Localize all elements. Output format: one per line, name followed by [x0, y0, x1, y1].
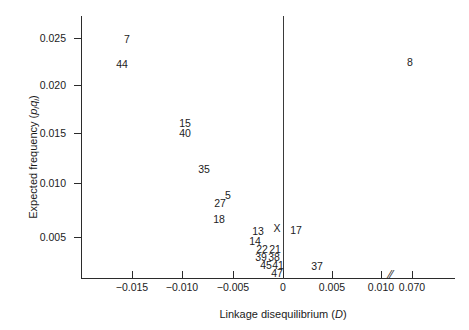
data-point-label: X	[273, 223, 280, 234]
x-tick-mark	[381, 271, 382, 278]
scatter-plot-figure: // 0.0050.0100.0150.0200.025 −0.015−0.01…	[0, 0, 469, 330]
x-tick-label: −0.015	[116, 282, 148, 293]
data-point-label: 44	[116, 59, 128, 70]
y-tick-mark	[74, 237, 81, 238]
x-tick-mark	[233, 271, 234, 278]
x-tick-label: 0.070	[399, 282, 425, 293]
data-point-label: 40	[179, 128, 191, 139]
data-point-label: 7	[124, 34, 130, 45]
x-axis-title: Linkage disequilibrium (D)	[219, 308, 346, 320]
x-tick-label: 0.005	[319, 282, 345, 293]
y-axis-title-q-sub: i	[32, 99, 41, 101]
data-point-label: 8	[407, 57, 413, 68]
y-axis-title-text: Expected frequency (	[27, 115, 39, 219]
y-tick-mark	[74, 133, 81, 134]
y-axis-title-p-sub: i	[32, 107, 41, 109]
x-axis-title-close: )	[343, 308, 347, 320]
x-axis-title-text: Linkage disequilibrium (	[219, 308, 335, 320]
data-point-label: 17	[290, 225, 302, 236]
x-tick-mark	[412, 271, 413, 278]
x-tick-mark	[332, 271, 333, 278]
data-point-label: 47	[271, 268, 283, 279]
x-axis-title-D: D	[335, 308, 343, 320]
zero-reference-line	[283, 16, 284, 279]
x-tick-mark	[132, 271, 133, 278]
x-tick-label: −0.010	[166, 282, 198, 293]
y-axis-title: Expected frequency (piqi)	[27, 37, 41, 277]
data-point-label: 27	[214, 198, 226, 209]
x-tick-mark	[182, 271, 183, 278]
y-axis-title-q: q	[27, 101, 39, 107]
y-tick-mark	[74, 85, 81, 86]
y-axis-title-p: p	[27, 109, 39, 115]
data-point-label: 37	[311, 261, 323, 272]
y-axis-title-close: )	[27, 95, 39, 99]
x-axis-line	[81, 278, 455, 279]
data-point-label: 45	[260, 260, 272, 271]
y-axis-line	[81, 16, 82, 279]
y-tick-mark	[74, 183, 81, 184]
x-tick-label: 0	[280, 282, 286, 293]
y-tick-mark	[74, 38, 81, 39]
x-tick-label: 0.010	[368, 282, 394, 293]
x-tick-label: −0.005	[217, 282, 249, 293]
data-point-label: 35	[198, 164, 210, 175]
data-point-label: 18	[213, 214, 225, 225]
